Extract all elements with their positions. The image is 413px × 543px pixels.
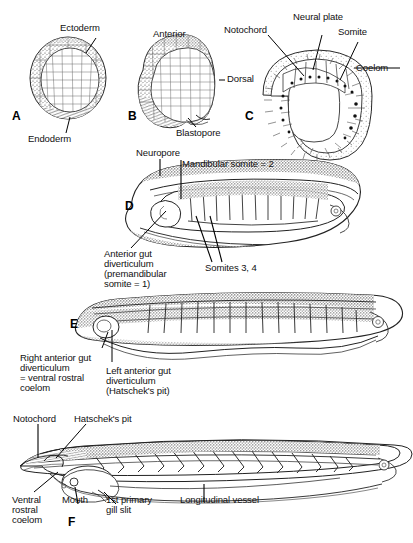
label-neuropore: Neuropore: [136, 148, 180, 159]
label-blastopore: Blastopore: [176, 128, 220, 139]
label-notochord: Notochord: [224, 25, 267, 36]
panel-letter-b: B: [128, 110, 137, 122]
panel-d-early-larva: [126, 159, 384, 262]
longitudinal-vessel-line: [110, 478, 340, 489]
label-right-agd-line4: coelom: [20, 383, 50, 394]
panel-letter-d: D: [125, 200, 134, 212]
label-dorsal: Dorsal: [227, 74, 254, 85]
label-hatscheks-pit: Hatschek's pit: [74, 414, 131, 425]
label-longitudinal-vessel: Longitudinal vessel: [180, 495, 259, 506]
label-anterior: Anterior: [153, 29, 185, 40]
label-endoderm: Endoderm: [28, 134, 71, 145]
panel-f-advanced-larva: [20, 424, 412, 504]
panel-a-gastrula: [30, 34, 106, 133]
panel-b-late-gastrula: [134, 27, 225, 128]
mouth-opening: [70, 478, 78, 486]
label-somites-3-4: Somites 3, 4: [205, 263, 257, 274]
label-neural-plate: Neural plate: [293, 12, 343, 23]
label-left-agd-line3: (Hatschek's pit): [106, 386, 170, 397]
label-somite: Somite: [338, 27, 367, 38]
label-ectoderm: Ectoderm: [60, 23, 100, 34]
label-anterior-gut-line4: somite = 1): [104, 279, 150, 290]
panel-c-neurula-section: [263, 35, 400, 160]
panel-letter-c: C: [245, 110, 254, 122]
panel-letter-a: A: [12, 110, 21, 122]
label-mandibular-somite: Mandibular somite = 2: [182, 159, 274, 170]
panel-letter-e: E: [70, 318, 78, 330]
label-coelom: Coelom: [356, 63, 388, 74]
figure-canvas: Ectoderm Endoderm A Anterior Dorsal Blas…: [0, 0, 413, 543]
label-ventral-rostral-line3: coelom: [12, 515, 42, 526]
panel-letter-f: F: [68, 516, 75, 528]
label-notochord-f: Notochord: [13, 414, 56, 425]
panel-e-elongating-larva: [74, 292, 403, 362]
leader-ventral-rostral-coelom: [34, 472, 58, 492]
label-gill-slit-line2: gill slit: [106, 505, 131, 516]
label-mouth: Mouth: [62, 495, 88, 506]
